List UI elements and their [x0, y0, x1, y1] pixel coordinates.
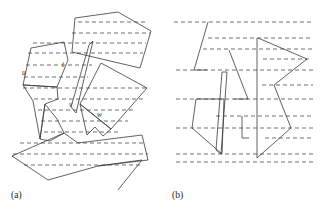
bottom-right-triangle — [98, 160, 142, 190]
left-upper-wedge — [194, 22, 208, 70]
center-left-strip — [216, 72, 227, 154]
inner-bracket — [242, 116, 249, 138]
panel-b-sweep-lines — [174, 22, 313, 162]
panel-a-polygons — [12, 12, 151, 190]
right-quadrilateral — [80, 63, 147, 129]
figure-canvas: utvw (a)(b) — [0, 0, 323, 212]
top-right-pentagon — [72, 12, 151, 68]
middle-zigzag — [40, 104, 64, 141]
panel-a-sweep-lines — [13, 22, 150, 165]
panel-captions: (a)(b) — [11, 190, 183, 201]
bottom-arrow — [12, 133, 148, 180]
left-spike-polygon — [23, 85, 58, 139]
right-lower-quad — [257, 85, 291, 158]
lower-right-notch — [80, 104, 111, 136]
vertex-label-w: w — [97, 111, 102, 119]
center-triangle — [229, 50, 248, 99]
panel-caption-a: (a) — [11, 190, 22, 201]
geometry-figure: utvw (a)(b) — [0, 0, 323, 212]
vertex-label-u: u — [22, 69, 26, 77]
right-upper-triangle — [258, 38, 307, 85]
panel-caption-b: (b) — [172, 190, 183, 201]
